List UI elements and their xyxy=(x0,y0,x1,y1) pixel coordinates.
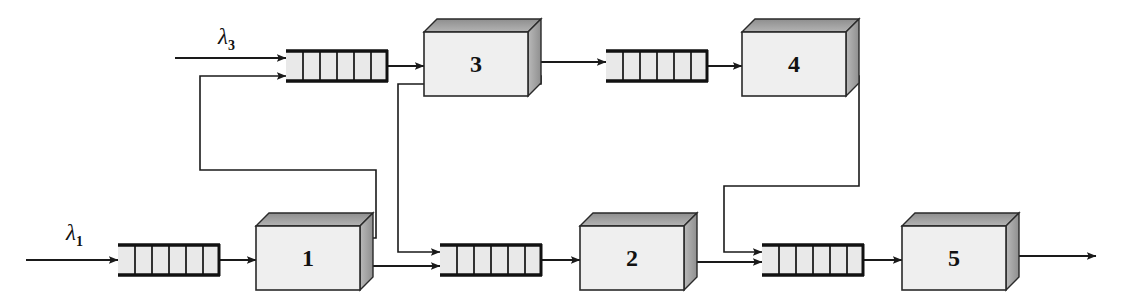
server-3 xyxy=(424,19,541,96)
flow-server3-to-queue2 xyxy=(398,76,541,252)
flow-server4-to-queue5 xyxy=(724,76,859,252)
queue-3 xyxy=(286,50,388,82)
server-4 xyxy=(742,19,859,96)
queue-2 xyxy=(440,244,542,276)
server-2 xyxy=(580,213,697,290)
queue-4 xyxy=(606,50,708,82)
server-1 xyxy=(256,213,373,290)
queue-1 xyxy=(118,244,220,276)
server-5 xyxy=(902,213,1019,290)
queue-5 xyxy=(762,244,864,276)
queueing-network-diagram: λ3 λ1 3 4 1 2 5 xyxy=(0,0,1121,304)
diagram-canvas xyxy=(0,0,1121,304)
